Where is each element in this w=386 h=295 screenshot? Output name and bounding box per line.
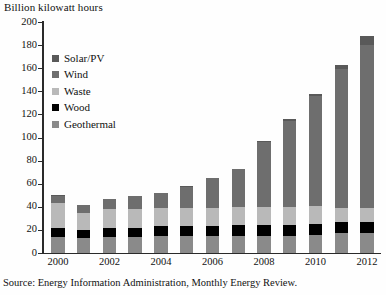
bar-segment <box>128 196 141 209</box>
x-axis-tick-label: 2012 <box>347 256 386 267</box>
legend-item-label: Wind <box>64 69 88 80</box>
bar-stack <box>232 169 245 253</box>
bar-stack <box>309 94 322 253</box>
bar-stack <box>128 196 141 253</box>
legend-item-label: Wood <box>64 102 90 113</box>
bar-stack <box>51 195 64 253</box>
bar-segment <box>77 238 90 253</box>
chart-legend: Solar/PVWindWasteWoodGeothermal <box>52 52 116 130</box>
bar-segment <box>335 69 348 208</box>
bar-segment <box>360 233 373 253</box>
y-axis-tick-label: 20 <box>4 224 37 234</box>
bar-segment <box>103 228 116 237</box>
bar-segment <box>232 169 245 207</box>
bar-segment <box>103 209 116 227</box>
y-axis-tick-labels: 020406080100120140160180200 <box>0 0 37 295</box>
legend-item-label: Solar/PV <box>64 53 104 64</box>
legend-item: Waste <box>52 85 116 97</box>
bar-segment <box>309 235 322 253</box>
bar-segment <box>128 228 141 237</box>
x-axis-tick-label: 2002 <box>89 256 129 267</box>
x-axis-tick-label: 2008 <box>244 256 284 267</box>
y-axis-tick-label: 40 <box>4 201 37 211</box>
bar-segment <box>154 236 167 253</box>
bar-segment <box>51 228 64 237</box>
bar-segment <box>257 207 270 225</box>
bar-stack <box>360 36 373 253</box>
bar-segment <box>309 96 322 206</box>
bar-stack <box>180 186 193 253</box>
bar-segment <box>51 203 64 227</box>
legend-item-label: Waste <box>64 86 91 97</box>
bar-stack <box>154 193 167 253</box>
bar-segment <box>206 178 219 208</box>
bar-stack <box>257 141 270 253</box>
bar-segment <box>77 230 90 238</box>
bar-segment <box>232 225 245 235</box>
y-axis-tick-label: 200 <box>4 17 37 27</box>
bar-segment <box>103 199 116 209</box>
y-axis-tick-label: 160 <box>4 63 37 73</box>
bar-segment <box>180 236 193 253</box>
bar-segment <box>283 225 296 235</box>
bar-segment <box>232 207 245 225</box>
bar-segment <box>257 225 270 235</box>
legend-item: Wind <box>52 69 116 81</box>
bar-segment <box>283 207 296 225</box>
bar-segment <box>257 236 270 253</box>
y-axis-tick-label: 80 <box>4 155 37 165</box>
source-note: Source: Energy Information Administratio… <box>3 277 297 288</box>
legend-item: Solar/PV <box>52 52 116 64</box>
x-axis-tick-label: 2006 <box>193 256 233 267</box>
bar-segment <box>180 226 193 235</box>
bar-segment <box>360 45 373 208</box>
bar-segment <box>283 121 296 206</box>
bar-segment <box>335 222 348 234</box>
bar-segment <box>154 226 167 235</box>
legend-item: Wood <box>52 102 116 114</box>
legend-swatch-icon <box>52 121 59 128</box>
bar-segment <box>77 213 90 230</box>
bar-stack <box>77 205 90 253</box>
bar-segment <box>257 142 270 207</box>
y-axis-tick-label: 140 <box>4 86 37 96</box>
x-axis-tick-labels: 2000200220042006200820102012 <box>0 256 386 272</box>
bar-stack <box>206 178 219 253</box>
x-axis-tick-label: 2000 <box>38 256 78 267</box>
x-axis-tick-label: 2010 <box>296 256 336 267</box>
bar-stack <box>335 65 348 253</box>
bar-segment <box>283 236 296 253</box>
bar-segment <box>77 205 90 213</box>
bar-segment <box>206 226 219 235</box>
bar-segment <box>180 208 193 226</box>
bar-segment <box>180 187 193 208</box>
legend-swatch-icon <box>52 71 59 78</box>
y-axis-tick-label: 60 <box>4 178 37 188</box>
bar-segment <box>206 236 219 253</box>
y-axis-tick-label: 120 <box>4 109 37 119</box>
bar-segment <box>232 236 245 253</box>
bar-segment <box>51 196 64 203</box>
bar-segment <box>154 208 167 226</box>
bar-segment <box>360 208 373 222</box>
bar-segment <box>360 36 373 45</box>
bar-stack <box>283 119 296 253</box>
bar-segment <box>335 233 348 253</box>
bar-segment <box>128 209 141 227</box>
x-axis-tick-label: 2004 <box>141 256 181 267</box>
legend-swatch-icon <box>52 88 59 95</box>
legend-item: Geothermal <box>52 118 116 130</box>
bar-stack <box>103 199 116 253</box>
legend-swatch-icon <box>52 55 59 62</box>
bar-segment <box>309 206 322 224</box>
bar-segment <box>103 237 116 253</box>
bar-segment <box>51 237 64 253</box>
bar-segment <box>128 237 141 253</box>
legend-swatch-icon <box>52 104 59 111</box>
bar-segment <box>309 224 322 234</box>
y-axis-tick-label: 100 <box>4 132 37 142</box>
chart-figure: Billion kilowatt hours 02040608010012014… <box>0 0 386 295</box>
bar-segment <box>335 208 348 222</box>
bar-segment <box>154 193 167 208</box>
legend-item-label: Geothermal <box>64 119 116 130</box>
